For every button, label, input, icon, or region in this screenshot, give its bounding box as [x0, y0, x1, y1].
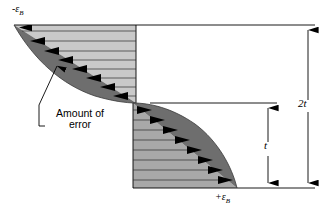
label-positive-strain: +εB — [215, 192, 230, 205]
diagram-canvas — [0, 0, 328, 211]
strain-error-diagram: -εB +εB 2t t Amount of error — [0, 0, 328, 211]
label-dimension-t: t — [264, 140, 267, 152]
upper-strain-block — [14, 24, 136, 103]
label-negative-strain: -εB — [12, 4, 24, 17]
label-negative-strain-subscript: B — [19, 9, 23, 17]
label-amount-of-error-line2: error — [36, 119, 124, 130]
label-amount-of-error: Amount of error — [36, 108, 124, 130]
label-positive-strain-sign: + — [215, 191, 222, 202]
label-dimension-2t: 2t — [298, 98, 307, 110]
label-positive-strain-subscript: B — [226, 197, 230, 205]
lower-strain-block — [133, 103, 237, 188]
